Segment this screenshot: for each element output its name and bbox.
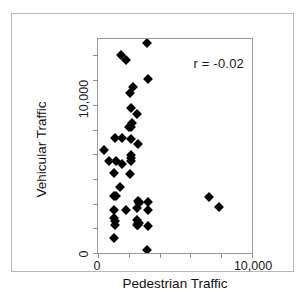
data-point xyxy=(142,245,152,253)
x-axis-title: Pedestrian Traffic xyxy=(97,276,253,289)
data-point xyxy=(125,169,135,179)
y-axis-tick xyxy=(93,154,98,155)
data-point xyxy=(121,205,131,215)
y-axis-tick xyxy=(93,55,98,56)
data-point xyxy=(121,55,131,65)
y-axis-title: Vehicular Traffic xyxy=(34,90,49,210)
data-point xyxy=(204,192,214,202)
data-point xyxy=(143,205,153,215)
data-point xyxy=(214,202,224,212)
data-point xyxy=(143,74,153,84)
y-axis-tick xyxy=(93,179,98,180)
y-axis-tick xyxy=(93,253,98,254)
x-tick-label-max: 10,000 xyxy=(234,259,272,273)
x-axis-tick xyxy=(160,253,161,258)
figure-border: r = -0.02 0 10,000 0 10,000 Pedestrian T… xyxy=(11,13,294,272)
y-tick-label-min: 0 xyxy=(77,243,91,265)
y-axis-tick xyxy=(93,204,98,205)
y-axis-tick xyxy=(93,80,98,81)
x-axis-tick xyxy=(221,253,222,258)
x-axis-tick xyxy=(252,253,253,258)
y-axis-tick xyxy=(93,228,98,229)
y-axis-tick xyxy=(93,105,98,106)
y-axis-tick xyxy=(93,130,98,131)
correlation-annotation: r = -0.02 xyxy=(193,56,244,71)
data-point xyxy=(109,233,119,243)
data-point xyxy=(143,221,153,231)
data-point xyxy=(99,145,109,155)
plot-area: r = -0.02 xyxy=(97,38,253,254)
x-axis-tick xyxy=(129,253,130,258)
data-point xyxy=(142,39,152,48)
x-axis-tick xyxy=(190,253,191,258)
data-point xyxy=(109,168,119,178)
y-tick-label-mid: 10,000 xyxy=(77,73,91,125)
x-axis-tick xyxy=(98,253,99,258)
scatter-canvas xyxy=(98,39,252,253)
x-tick-label-min: 0 xyxy=(94,259,101,273)
